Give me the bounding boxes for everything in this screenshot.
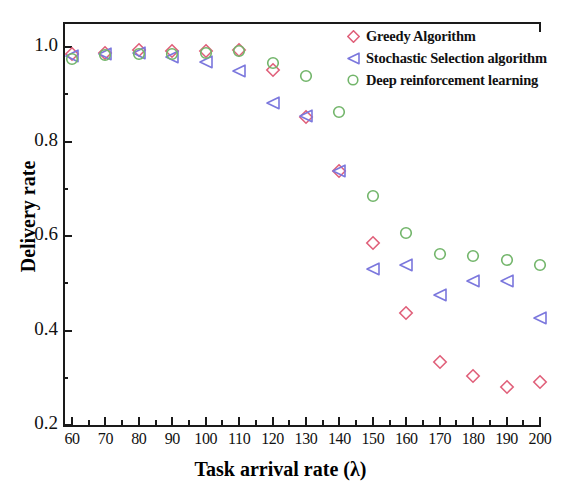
y-tick-minor [63,282,68,284]
data-point [300,70,313,83]
x-tick-minor [355,420,357,425]
x-tick-label: 200 [529,430,552,448]
data-point [366,189,379,202]
x-tick-minor [155,420,157,425]
legend-item: Stochastic Selection algorithm [340,48,558,68]
data-point [433,247,446,260]
x-tick-label: 100 [194,430,217,448]
data-point [399,258,413,272]
data-point [500,274,514,288]
x-tick-major [238,417,240,425]
x-tick-major [472,417,474,425]
legend-label: Stochastic Selection algorithm [366,50,547,67]
x-tick-minor [288,420,290,425]
data-point [332,164,346,178]
x-tick-label: 150 [361,430,384,448]
x-tick-major [338,417,340,425]
x-tick-major [539,417,541,425]
y-axis-title: Delivery rate [17,97,40,337]
data-point [166,48,179,61]
data-point [232,64,246,78]
x-tick-label: 120 [261,430,284,448]
x-tick-minor [489,420,491,425]
x-tick-major [405,417,407,425]
data-point [333,106,346,119]
y-tick-minor [63,377,68,379]
legend-item: Greedy Algorithm [340,26,558,46]
y-tick-major [63,330,72,332]
x-tick-label: 160 [395,430,418,448]
x-tick-major [205,417,207,425]
x-tick-minor [255,420,257,425]
data-point [500,380,514,394]
x-tick-major [138,417,140,425]
legend-item: Deep reinforcement learning [340,70,558,90]
data-point [266,56,279,69]
x-tick-label: 140 [328,430,351,448]
x-tick-minor [522,420,524,425]
data-point [466,369,480,383]
y-tick-major [63,235,72,237]
data-point [533,375,547,389]
data-point [533,311,547,325]
data-point [399,306,413,320]
data-point [466,274,480,288]
x-tick-major [71,417,73,425]
data-point [433,355,447,369]
x-tick-label: 80 [131,430,146,448]
x-tick-major [104,417,106,425]
y-tick-minor [63,188,68,190]
x-tick-minor [88,420,90,425]
x-tick-minor [121,420,123,425]
data-point [366,236,380,250]
x-tick-minor [221,420,223,425]
x-tick-minor [455,420,457,425]
x-tick-label: 130 [295,430,318,448]
data-point [366,262,380,276]
data-point [233,45,246,58]
x-tick-major [272,417,274,425]
legend-marker-icon [340,30,366,43]
y-tick-major [63,141,72,143]
data-point [534,258,547,271]
data-point [99,48,112,61]
x-tick-label: 170 [428,430,451,448]
x-tick-major [372,417,374,425]
legend-label: Deep reinforcement learning [366,72,538,89]
x-axis-line [63,425,541,427]
x-tick-minor [422,420,424,425]
y-tick-label: 1.0 [0,34,58,56]
chart-root: 0.20.40.60.81.0 607080901001101201301401… [0,0,561,489]
x-tick-major [439,417,441,425]
data-point [467,250,480,263]
data-point [500,254,513,267]
x-tick-minor [322,420,324,425]
data-point [400,227,413,240]
y-tick-minor [63,93,68,95]
x-tick-minor [389,420,391,425]
x-tick-major [506,417,508,425]
data-point [299,109,313,123]
x-tick-minor [188,420,190,425]
data-point [199,46,212,59]
data-point [132,48,145,61]
x-tick-label: 90 [165,430,180,448]
legend-marker-icon [340,52,366,65]
x-axis-title: Task arrival rate (λ) [0,458,561,481]
x-tick-major [171,417,173,425]
x-tick-label: 60 [64,430,79,448]
data-point [433,288,447,302]
x-tick-label: 190 [495,430,518,448]
data-point [266,96,280,110]
y-tick-label: 0.2 [0,412,58,434]
x-tick-label: 110 [228,430,250,448]
legend-label: Greedy Algorithm [366,28,476,45]
x-tick-major [305,417,307,425]
data-point [66,52,79,65]
x-tick-label: 70 [98,430,113,448]
x-tick-label: 180 [462,430,485,448]
legend-marker-icon [340,74,366,86]
chart-legend: Greedy AlgorithmStochastic Selection alg… [340,26,558,92]
